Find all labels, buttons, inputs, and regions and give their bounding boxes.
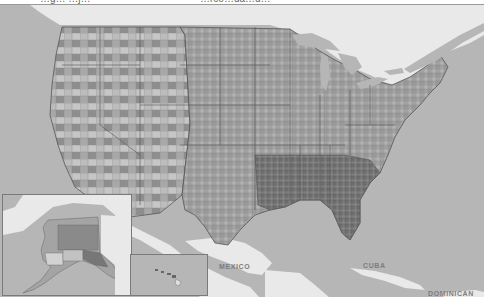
label-mexico: MEXICO [219,263,250,270]
alaska-inset[interactable] [2,194,132,296]
label-cuba: CUBA [363,262,386,269]
alaska-map [3,195,131,295]
choropleth-map[interactable]: MEXICO CUBA DOMINICAN [0,4,484,298]
us-southeast [255,155,380,240]
cuba-land [350,268,425,290]
us-west [50,27,190,217]
hawaii-map [131,255,207,295]
label-dominican: DOMINICAN [428,290,474,297]
hawaii-inset[interactable] [130,254,208,296]
